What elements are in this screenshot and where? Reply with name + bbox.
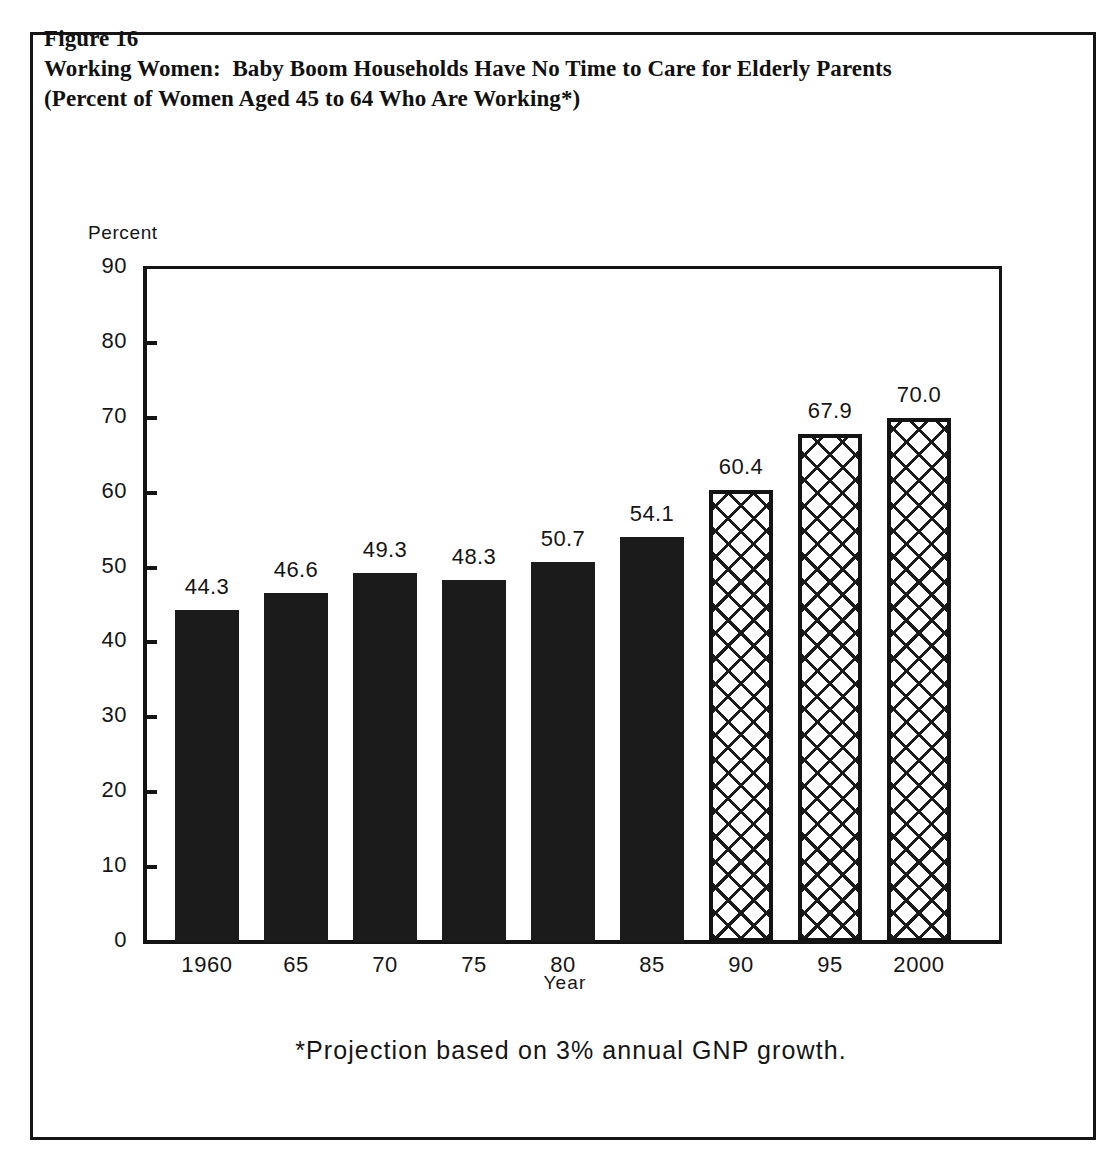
x-axis-title: Year <box>0 972 1118 994</box>
y-tick-mark <box>143 491 157 495</box>
footnote: *Projection based on 3% annual GNP growt… <box>0 1036 1118 1065</box>
y-tick-mark <box>143 640 157 644</box>
bar-value-label: 70.0 <box>874 382 964 408</box>
y-tick-mark <box>143 865 157 869</box>
y-tick-label: 0 <box>67 927 127 953</box>
bar-75 <box>442 580 506 942</box>
bar-value-label: 44.3 <box>162 574 252 600</box>
bar-80 <box>531 562 595 942</box>
bar-chart: Percent 0102030405060708090 196065707580… <box>0 0 1118 1173</box>
bar-value-label: 49.3 <box>340 537 430 563</box>
y-tick-label: 50 <box>67 553 127 579</box>
bar-value-label: 46.6 <box>251 557 341 583</box>
y-tick-label: 10 <box>67 852 127 878</box>
bar-70 <box>353 573 417 942</box>
y-tick-label: 40 <box>67 627 127 653</box>
y-tick-label: 20 <box>67 777 127 803</box>
bar-90 <box>709 490 773 942</box>
bar-1960 <box>175 610 239 942</box>
bar-value-label: 50.7 <box>518 526 608 552</box>
y-tick-label: 80 <box>67 328 127 354</box>
bar-95 <box>798 434 862 942</box>
footnote-text: *Projection based on 3% annual GNP growt… <box>295 1036 847 1064</box>
y-tick-label: 60 <box>67 478 127 504</box>
y-tick-label: 70 <box>67 403 127 429</box>
bar-value-label: 48.3 <box>429 544 519 570</box>
y-tick-mark <box>143 715 157 719</box>
y-tick-mark <box>143 790 157 794</box>
y-tick-mark <box>143 566 157 570</box>
y-tick-mark <box>143 416 157 420</box>
bar-65 <box>264 593 328 942</box>
y-tick-label: 90 <box>67 253 127 279</box>
bar-value-label: 60.4 <box>696 454 786 480</box>
x-axis-title-text: Year <box>543 972 586 993</box>
bar-value-label: 67.9 <box>785 398 875 424</box>
bar-2000 <box>887 418 951 942</box>
y-tick-mark <box>143 341 157 345</box>
bar-85 <box>620 537 684 942</box>
y-tick-label: 30 <box>67 702 127 728</box>
y-axis-title: Percent <box>88 222 158 244</box>
bar-value-label: 54.1 <box>607 501 697 527</box>
